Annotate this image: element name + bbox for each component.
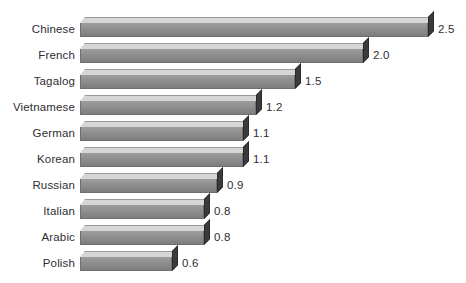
value-label: 1.1 (253, 153, 270, 166)
bar (80, 43, 363, 63)
category-label: Russian (0, 179, 75, 192)
bar-row: Chinese2.5 (0, 12, 466, 38)
bar-end-cap (217, 167, 223, 193)
bar-end-cap (204, 193, 210, 219)
category-label: French (0, 49, 75, 62)
bar (80, 95, 256, 115)
bar-series: Chinese2.5French2.0Tagalog1.5Vietnamese1… (0, 12, 466, 272)
value-label: 2.0 (373, 49, 390, 62)
bar-end-cap (256, 89, 262, 115)
bar-end-cap (363, 37, 369, 63)
bar-front-face (80, 153, 243, 167)
bar-row: Vietnamese1.2 (0, 90, 466, 116)
value-label: 0.8 (214, 231, 231, 244)
bar-front-face (80, 101, 256, 115)
bar-front-face (80, 75, 295, 89)
bar-front-face (80, 231, 204, 245)
value-label: 0.8 (214, 205, 231, 218)
value-label: 0.6 (182, 257, 199, 270)
bar (80, 17, 428, 37)
value-label: 0.9 (227, 179, 244, 192)
bar-row: Tagalog1.5 (0, 64, 466, 90)
bar (80, 225, 204, 245)
category-label: Chinese (0, 23, 75, 36)
category-label: Arabic (0, 231, 75, 244)
category-label: German (0, 127, 75, 140)
bar (80, 121, 243, 141)
bar-chart: Chinese2.5French2.0Tagalog1.5Vietnamese1… (0, 0, 466, 283)
bar-front-face (80, 205, 204, 219)
bar-row: Italian0.8 (0, 194, 466, 220)
category-label: Italian (0, 205, 75, 218)
value-label: 2.5 (438, 23, 455, 36)
category-label: Korean (0, 153, 75, 166)
bar-row: Russian0.9 (0, 168, 466, 194)
bar-end-cap (172, 245, 178, 271)
bar (80, 251, 172, 271)
category-label: Tagalog (0, 75, 75, 88)
bar-end-cap (243, 115, 249, 141)
bar-front-face (80, 23, 428, 37)
bar (80, 199, 204, 219)
bar-row: Korean1.1 (0, 142, 466, 168)
bar-row: Arabic0.8 (0, 220, 466, 246)
bar (80, 69, 295, 89)
bar-end-cap (295, 63, 301, 89)
bar (80, 173, 217, 193)
bar-end-cap (243, 141, 249, 167)
bar-end-cap (204, 219, 210, 245)
value-label: 1.5 (305, 75, 322, 88)
bar-front-face (80, 257, 172, 271)
bar-row: Polish0.6 (0, 246, 466, 272)
value-label: 1.1 (253, 127, 270, 140)
bar-front-face (80, 49, 363, 63)
bar-end-cap (428, 11, 434, 37)
bar-row: German1.1 (0, 116, 466, 142)
value-label: 1.2 (266, 101, 283, 114)
bar-front-face (80, 127, 243, 141)
category-label: Polish (0, 257, 75, 270)
category-label: Vietnamese (0, 101, 75, 114)
bar-front-face (80, 179, 217, 193)
bar-row: French2.0 (0, 38, 466, 64)
bar (80, 147, 243, 167)
